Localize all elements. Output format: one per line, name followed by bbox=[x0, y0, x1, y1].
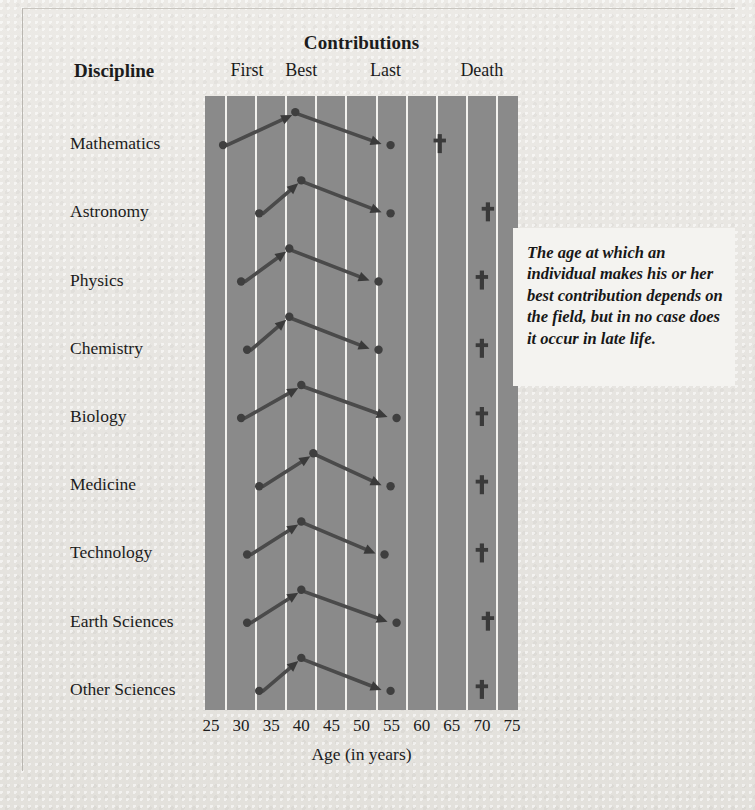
marker-first bbox=[237, 277, 245, 285]
death-cross-icon bbox=[476, 475, 488, 494]
x-tick-label: 35 bbox=[254, 716, 288, 736]
arrow-best-to-last bbox=[304, 523, 375, 553]
death-cross-icon bbox=[434, 134, 446, 153]
marker-last bbox=[374, 277, 382, 285]
arrow-first-to-best bbox=[245, 388, 298, 418]
arrow-best-to-last bbox=[304, 592, 387, 623]
marker-first bbox=[255, 209, 263, 217]
x-axis-title: Age (in years) bbox=[205, 744, 518, 765]
arrow-best-to-last bbox=[292, 251, 369, 282]
marker-best bbox=[297, 585, 305, 593]
marker-best bbox=[297, 517, 305, 525]
column-header-last: Last bbox=[341, 60, 431, 81]
marker-last bbox=[386, 141, 394, 149]
discipline-column-header: Discipline bbox=[74, 60, 154, 82]
discipline-label: Astronomy bbox=[70, 201, 202, 222]
arrow-first-to-best bbox=[263, 661, 298, 691]
x-tick-label: 45 bbox=[314, 716, 348, 736]
x-tick-label: 70 bbox=[465, 716, 499, 736]
death-cross-icon bbox=[476, 543, 488, 562]
contributions-title: Contributions bbox=[205, 32, 518, 54]
discipline-label: Earth Sciences bbox=[70, 611, 202, 632]
arrow-first-to-best bbox=[251, 593, 298, 623]
arrow-first-to-best bbox=[251, 524, 298, 554]
discipline-label: Other Sciences bbox=[70, 679, 202, 700]
marker-first bbox=[243, 618, 251, 626]
death-cross-icon bbox=[476, 339, 488, 358]
marker-best bbox=[291, 108, 299, 116]
marker-last bbox=[386, 209, 394, 217]
marker-best bbox=[285, 244, 293, 252]
discipline-label: Physics bbox=[70, 270, 202, 291]
arrow-first-to-best bbox=[245, 252, 286, 282]
arrow-best-to-last bbox=[316, 455, 381, 485]
marker-last bbox=[392, 414, 400, 422]
arrow-best-to-last bbox=[304, 660, 381, 691]
discipline-label: Medicine bbox=[70, 474, 202, 495]
x-tick-label: 30 bbox=[224, 716, 258, 736]
discipline-label: Chemistry bbox=[70, 338, 202, 359]
x-tick-label: 65 bbox=[435, 716, 469, 736]
arrow-best-to-last bbox=[304, 182, 381, 213]
discipline-label: Technology bbox=[70, 542, 202, 563]
x-tick-label: 75 bbox=[495, 716, 529, 736]
arrow-first-to-best bbox=[227, 115, 292, 145]
x-tick-label: 25 bbox=[194, 716, 228, 736]
marker-last bbox=[386, 482, 394, 490]
marker-last bbox=[374, 346, 382, 354]
chart-plot-area bbox=[205, 96, 518, 710]
marker-best bbox=[309, 449, 317, 457]
x-tick-label: 55 bbox=[375, 716, 409, 736]
death-cross-icon bbox=[482, 612, 494, 631]
marker-best bbox=[285, 313, 293, 321]
callout-note: The age at which an individual makes his… bbox=[513, 228, 735, 386]
arrow-first-to-best bbox=[251, 320, 286, 350]
x-tick-label: 60 bbox=[405, 716, 439, 736]
arrow-best-to-last bbox=[298, 114, 381, 145]
arrow-best-to-last bbox=[292, 319, 369, 350]
marker-last bbox=[392, 618, 400, 626]
marker-first bbox=[255, 687, 263, 695]
column-header-death: Death bbox=[437, 60, 527, 81]
marker-last bbox=[380, 550, 388, 558]
death-cross-icon bbox=[476, 680, 488, 699]
arrow-first-to-best bbox=[263, 456, 310, 486]
x-tick-label: 50 bbox=[345, 716, 379, 736]
x-tick-label: 40 bbox=[284, 716, 318, 736]
chart-marks bbox=[205, 96, 518, 710]
marker-best bbox=[297, 654, 305, 662]
death-cross-icon bbox=[482, 202, 494, 221]
marker-best bbox=[297, 176, 305, 184]
column-header-best: Best bbox=[256, 60, 346, 81]
arrow-best-to-last bbox=[304, 387, 387, 418]
marker-best bbox=[297, 381, 305, 389]
death-cross-icon bbox=[476, 271, 488, 290]
marker-first bbox=[255, 482, 263, 490]
death-cross-icon bbox=[476, 407, 488, 426]
discipline-label: Mathematics bbox=[70, 133, 202, 154]
marker-first bbox=[219, 141, 227, 149]
marker-first bbox=[243, 346, 251, 354]
marker-first bbox=[237, 414, 245, 422]
arrow-first-to-best bbox=[263, 183, 298, 213]
marker-first bbox=[243, 550, 251, 558]
discipline-label: Biology bbox=[70, 406, 202, 427]
marker-last bbox=[386, 687, 394, 695]
